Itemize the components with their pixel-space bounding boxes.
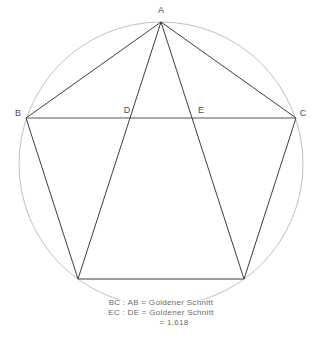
pentagon-outline — [26, 22, 296, 279]
caption-line-3: = 1,618 — [0, 318, 322, 328]
diagonal-a-bottomleft-line — [78, 22, 161, 279]
diagram-page: A B C D E BC : AB = Goldener Schnitt EC … — [0, 0, 322, 350]
circumscribed-circle — [19, 22, 303, 300]
vertex-label-b: B — [15, 108, 21, 118]
caption-line-1: BC : AB = Goldener Schnitt — [0, 298, 322, 308]
diagonal-a-bottomright-line — [161, 22, 244, 279]
vertex-label-e: E — [198, 105, 204, 115]
vertex-label-a: A — [158, 5, 164, 15]
vertex-label-c: C — [300, 108, 307, 118]
vertex-label-d: D — [124, 105, 131, 115]
caption-line-2: EC : DE = Goldener Schnitt — [0, 308, 322, 318]
pentagon-golden-section-figure: A B C D E — [0, 0, 322, 300]
caption-block: BC : AB = Goldener Schnitt EC : DE = Gol… — [0, 298, 322, 328]
